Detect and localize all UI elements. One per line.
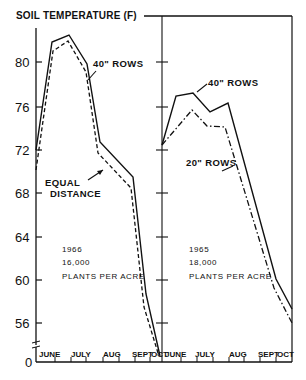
- svg-text:JUNE: JUNE: [39, 350, 61, 359]
- svg-text:JUNE: JUNE: [165, 350, 187, 359]
- label-40in-rows-left: 40" ROWS: [93, 58, 143, 69]
- svg-text:64: 64: [15, 230, 29, 245]
- label-20in-rows: 20" ROWS: [186, 157, 236, 168]
- y-ticks-left: [36, 62, 42, 323]
- svg-text:OCT: OCT: [277, 350, 294, 359]
- svg-text:0: 0: [25, 355, 32, 370]
- series-line-20in-rows-1965: [162, 110, 292, 323]
- arrowhead-equal-distance: [97, 170, 103, 175]
- svg-text:68: 68: [15, 186, 29, 201]
- right-density-unit: PLANTS PER ACRE: [189, 272, 272, 281]
- svg-text:72: 72: [15, 143, 29, 158]
- svg-text:JULY: JULY: [195, 350, 215, 359]
- leader-line-40in-rows-right: [197, 84, 207, 92]
- svg-text:AUG: AUG: [103, 350, 121, 359]
- svg-text:60: 60: [15, 273, 29, 288]
- left-year: 1966: [62, 245, 82, 254]
- soil-temperature-chart: SOIL TEMPERATURE (F) 80 76 72 68 64 60 5…: [0, 0, 306, 380]
- left-density-unit: PLANTS PER ACRE: [62, 272, 145, 281]
- svg-text:SEPT: SEPT: [132, 350, 153, 359]
- x-month-labels-left: JUNE JULY AUG SEPT OCT: [39, 350, 168, 359]
- svg-text:JULY: JULY: [71, 350, 91, 359]
- chart-title: SOIL TEMPERATURE (F): [16, 10, 137, 21]
- label-equal-distance-line1: EQUAL: [45, 177, 80, 188]
- left-plant-density: 16,000: [62, 258, 90, 267]
- right-year: 1965: [189, 245, 209, 254]
- svg-text:76: 76: [15, 100, 29, 115]
- svg-text:SEPT: SEPT: [258, 350, 279, 359]
- x-month-labels-right: JUNE JULY AUG SEPT OCT: [165, 350, 294, 359]
- svg-text:AUG: AUG: [229, 350, 247, 359]
- right-plant-density: 18,000: [189, 258, 217, 267]
- svg-text:56: 56: [15, 316, 29, 331]
- y-tick-labels: 80 76 72 68 64 60 56 0: [15, 55, 32, 370]
- label-equal-distance-line2: DISTANCE: [50, 188, 101, 199]
- svg-text:80: 80: [15, 55, 29, 70]
- label-40in-rows-right: 40" ROWS: [208, 77, 258, 88]
